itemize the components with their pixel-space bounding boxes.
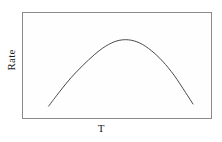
rate-curve-svg <box>22 12 212 119</box>
rate-curve-path <box>49 40 193 106</box>
y-axis-label-text: Rate <box>5 49 17 70</box>
y-axis-label: Rate <box>0 0 22 119</box>
x-axis-label: T <box>22 122 212 134</box>
figure-container: Rate T <box>0 0 222 142</box>
x-axis-label-text: T <box>98 122 105 134</box>
